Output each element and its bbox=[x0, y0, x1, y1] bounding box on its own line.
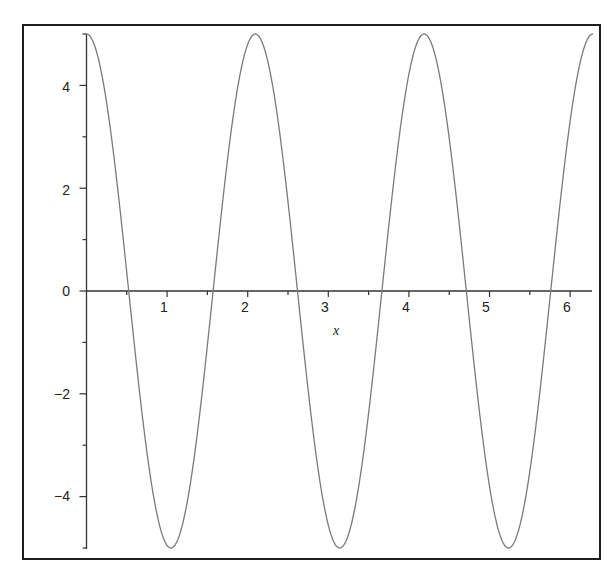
y-tick-label-4: 4 bbox=[62, 79, 70, 95]
y-tick-label-2: 2 bbox=[62, 182, 70, 198]
x-tick-label-6: 6 bbox=[563, 299, 571, 315]
x-tick-label-1: 1 bbox=[160, 299, 168, 315]
x-tick-label-4: 4 bbox=[402, 299, 410, 315]
y-ticks bbox=[80, 34, 87, 548]
y-tick-label-neg4: −4 bbox=[54, 488, 70, 504]
y-tick-label-0: 0 bbox=[62, 283, 70, 299]
x-tick-label-5: 5 bbox=[482, 299, 490, 315]
y-tick-label-neg2: −2 bbox=[54, 386, 70, 402]
plot-area: 4 2 0 −2 −4 1 2 3 4 5 6 x bbox=[0, 0, 614, 580]
x-tick-label-2: 2 bbox=[241, 299, 249, 315]
x-ticks bbox=[127, 291, 570, 297]
x-tick-label-3: 3 bbox=[321, 299, 329, 315]
x-axis-label: x bbox=[332, 323, 340, 338]
